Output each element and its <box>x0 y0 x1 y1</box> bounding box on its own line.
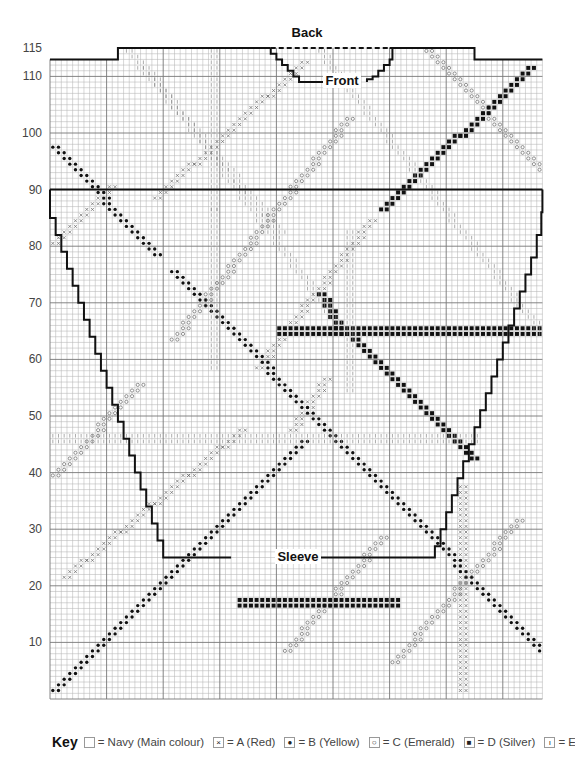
legend-item-yellow: ●= B (Yellow) <box>284 736 359 748</box>
legend-key: Key = Navy (Main colour) ×= A (Red) ●= B… <box>52 734 575 750</box>
legend-item-royal: ı= E (Royal) <box>544 736 575 748</box>
circle-square-icon: ○ <box>369 737 380 748</box>
blank-square-icon <box>84 737 95 748</box>
y-tick-label: 90 <box>14 183 42 197</box>
legend-item-silver: ■= D (Silver) <box>464 736 536 748</box>
y-tick-label: 110 <box>14 69 42 83</box>
y-tick-label: 40 <box>14 466 42 480</box>
y-tick-label: 60 <box>14 352 42 366</box>
y-tick-label: 20 <box>14 579 42 593</box>
y-tick-label: 10 <box>14 635 42 649</box>
dot-square-icon: ● <box>284 737 295 748</box>
filled-square-icon: ■ <box>464 737 475 748</box>
y-tick-label: 70 <box>14 296 42 310</box>
legend-title: Key <box>52 734 78 750</box>
cross-square-icon: × <box>213 737 224 748</box>
legend-item-emerald: ○= C (Emerald) <box>369 736 455 748</box>
y-tick-label: 80 <box>14 239 42 253</box>
back-label: Back <box>290 25 325 40</box>
legend-item-navy: = Navy (Main colour) <box>84 736 204 748</box>
front-label: Front <box>323 73 360 88</box>
sleeve-label: Sleeve <box>275 549 320 564</box>
y-tick-label: 30 <box>14 522 42 536</box>
knitting-chart-grid <box>0 0 575 757</box>
y-tick-label: 115 <box>14 41 42 55</box>
bar-square-icon: ı <box>544 737 555 748</box>
y-tick-label: 100 <box>14 126 42 140</box>
y-tick-label: 50 <box>14 409 42 423</box>
legend-item-red: ×= A (Red) <box>213 736 275 748</box>
